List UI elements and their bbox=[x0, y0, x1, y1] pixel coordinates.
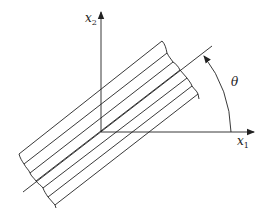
angle-arc bbox=[204, 56, 231, 132]
orientation-line bbox=[23, 46, 212, 192]
angle-theta-label: θ bbox=[231, 75, 239, 89]
x1-axis-label: x1 bbox=[237, 134, 249, 150]
x2-axis-label: x2 bbox=[85, 11, 97, 27]
lamina-orientation-diagram: x2 x1 θ bbox=[0, 0, 268, 219]
striped-band bbox=[19, 41, 199, 208]
stripe-line-1 bbox=[19, 41, 162, 154]
